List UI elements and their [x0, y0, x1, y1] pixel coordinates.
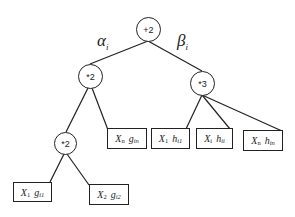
beta-weight-label: βi	[177, 31, 188, 52]
leaf-x1-gi1: X1 gi1	[13, 182, 52, 202]
edge-left-inner	[66, 88, 88, 132]
leaf-xn-hin: Xn hin	[243, 130, 283, 151]
node-label: +2	[143, 25, 153, 35]
edge-right-x1-hi1	[186, 95, 202, 129]
leaf-xn-gin: Xn gin	[107, 128, 147, 149]
node-label: *2	[86, 72, 95, 82]
alpha-weight-label: αi	[97, 31, 108, 52]
right-multiply-node: *3	[190, 71, 215, 96]
left-multiply-node: *2	[78, 64, 103, 89]
node-label: *3	[198, 79, 207, 89]
node-label: *2	[61, 139, 70, 149]
edge-root-right	[148, 41, 202, 71]
leaf-x2-gi2: X2 gi2	[89, 184, 129, 205]
edge-left-xn-gin	[92, 88, 108, 130]
leaf-x1-hi1: X1 hi1	[151, 128, 190, 149]
edge-right-xi-hii	[202, 95, 230, 129]
inner-multiply-node: *2	[54, 132, 77, 155]
edge-inner-x2-gi2	[67, 154, 89, 185]
leaf-xi-hii: Xi hii	[196, 128, 233, 149]
edge-right-xn-hin	[202, 95, 282, 131]
root-plus-node: +2	[136, 17, 161, 42]
edge-inner-x1-gi1	[50, 154, 64, 182]
